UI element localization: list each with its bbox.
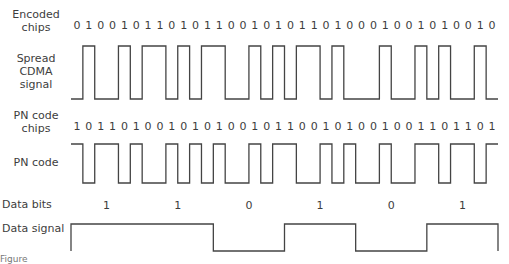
data-signal-waveform xyxy=(71,224,498,251)
figure-caption: Figure xyxy=(0,254,27,264)
pn-code-waveform xyxy=(71,144,498,183)
spread-cdma-waveform xyxy=(71,46,498,99)
